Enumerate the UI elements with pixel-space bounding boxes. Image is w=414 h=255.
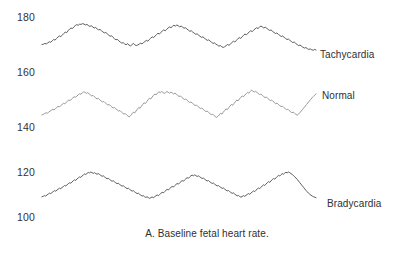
- trace-normal: [42, 90, 316, 117]
- trace-bradycardia: [42, 172, 316, 198]
- y-axis-tick-120: 120: [17, 166, 35, 178]
- y-axis-tick-180: 180: [17, 11, 35, 23]
- series-label-normal: Normal: [322, 90, 355, 102]
- trace-tachycardia: [42, 24, 316, 51]
- y-axis-tick-160: 160: [17, 66, 35, 78]
- y-axis-tick-100: 100: [17, 211, 35, 223]
- fetal-heart-rate-plot: [0, 0, 414, 255]
- figure-baseline-fetal-heart-rate: 180 160 140 120 100 Tachycardia Normal B…: [0, 0, 414, 255]
- series-label-bradycardia: Bradycardia: [327, 198, 381, 210]
- y-axis-tick-140: 140: [17, 121, 35, 133]
- series-label-tachycardia: Tachycardia: [320, 49, 374, 61]
- figure-caption: A. Baseline fetal heart rate.: [0, 228, 414, 240]
